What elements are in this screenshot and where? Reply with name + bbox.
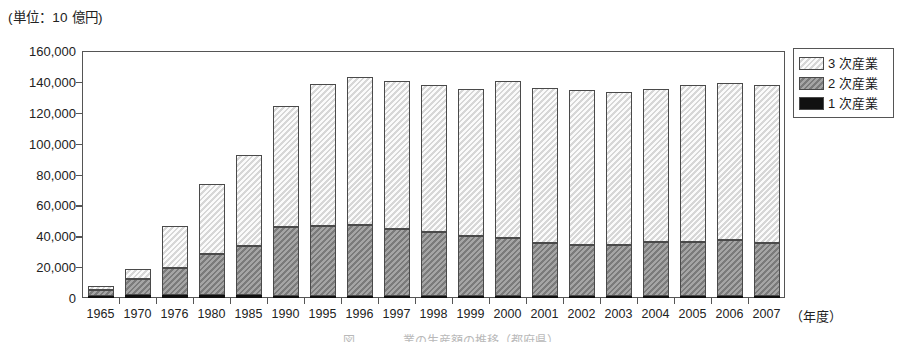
bar-stack[interactable] <box>199 184 225 298</box>
x-tick-mark <box>230 298 231 304</box>
bar-segment-secondary <box>88 290 114 296</box>
bar-segment-tertiary <box>125 269 151 279</box>
x-tick-label: 1995 <box>309 307 337 321</box>
bar-stack[interactable] <box>495 81 521 298</box>
x-tick-label: 2004 <box>642 307 670 321</box>
bar-stack[interactable] <box>569 90 595 298</box>
bar-stack[interactable] <box>754 85 780 298</box>
bar-segment-tertiary <box>421 85 447 232</box>
bar-segment-secondary <box>495 238 521 297</box>
bar-stack[interactable] <box>384 81 410 298</box>
bar-segment-tertiary <box>458 89 484 236</box>
bar-stack[interactable] <box>717 83 743 298</box>
bar-stack[interactable] <box>310 84 336 298</box>
x-tick-label: 2002 <box>568 307 596 321</box>
bars-layer <box>82 51 785 298</box>
x-tick-label: 2006 <box>716 307 744 321</box>
x-tick-mark <box>304 298 305 304</box>
x-tick-label: 1990 <box>272 307 300 321</box>
legend-label: 2 次産業 <box>828 77 878 90</box>
x-tick-mark <box>526 298 527 304</box>
bar-segment-secondary <box>569 245 595 297</box>
x-tick-mark <box>119 298 120 304</box>
x-tick-label: 2001 <box>531 307 559 321</box>
bar-segment-tertiary <box>606 92 632 245</box>
bar-segment-secondary <box>754 243 780 296</box>
x-tick-mark <box>415 298 416 304</box>
y-tick-label: 100,000 <box>29 137 76 150</box>
bar-stack[interactable] <box>273 106 299 298</box>
x-tick-mark <box>637 298 638 304</box>
bar-segment-tertiary <box>199 184 225 255</box>
figure-caption: 図 業の生産額の推移（都府県） <box>0 331 902 342</box>
bar-segment-tertiary <box>88 286 114 290</box>
bar-stack[interactable] <box>125 269 151 298</box>
legend-item-tertiary[interactable]: 3 次産業 <box>799 54 888 72</box>
legend-swatch-tertiary <box>799 57 824 70</box>
x-tick-label: 2005 <box>679 307 707 321</box>
bar-segment-secondary <box>717 240 743 296</box>
legend-item-secondary[interactable]: 2 次産業 <box>799 74 888 92</box>
y-tick-label: 140,000 <box>29 75 76 88</box>
bar-stack[interactable] <box>421 85 447 298</box>
bar-segment-tertiary <box>495 81 521 238</box>
x-tick-mark <box>378 298 379 304</box>
y-tick-label: 160,000 <box>29 45 76 58</box>
x-tick-mark <box>267 298 268 304</box>
bar-stack[interactable] <box>88 286 114 298</box>
bar-stack[interactable] <box>606 92 632 298</box>
x-tick-mark <box>674 298 675 304</box>
x-tick-label: 1999 <box>457 307 485 321</box>
y-tick-label: 80,000 <box>36 168 76 181</box>
x-tick-label: 1998 <box>420 307 448 321</box>
bar-stack[interactable] <box>236 155 262 298</box>
x-tick-label: 1965 <box>87 307 115 321</box>
bar-stack[interactable] <box>643 89 669 298</box>
y-tick-label: 60,000 <box>36 199 76 212</box>
x-tick-label: 1996 <box>346 307 374 321</box>
bar-segment-secondary <box>273 227 299 296</box>
legend-item-primary[interactable]: 1 次産業 <box>799 94 888 112</box>
legend-label: 1 次産業 <box>828 97 878 110</box>
y-tick-label: 40,000 <box>36 230 76 243</box>
bar-segment-secondary <box>680 242 706 296</box>
bar-segment-secondary <box>347 225 373 296</box>
x-tick-mark <box>563 298 564 304</box>
bar-segment-secondary <box>643 242 669 296</box>
bar-segment-tertiary <box>310 84 336 225</box>
x-tick-mark <box>452 298 453 304</box>
chart-legend: 3 次産業2 次産業1 次産業 <box>793 48 894 118</box>
x-tick-mark <box>600 298 601 304</box>
bar-stack[interactable] <box>458 89 484 298</box>
bar-segment-tertiary <box>754 85 780 243</box>
x-tick-mark <box>156 298 157 304</box>
bar-stack[interactable] <box>680 85 706 298</box>
bar-stack[interactable] <box>347 77 373 298</box>
y-axis: 160,000140,000120,000100,00080,00060,000… <box>0 41 82 308</box>
x-tick-label: 2003 <box>605 307 633 321</box>
bar-segment-secondary <box>162 268 188 295</box>
x-tick-mark <box>341 298 342 304</box>
bar-segment-secondary <box>421 232 447 296</box>
x-axis: （年度） 19651970197619801985199019951996199… <box>0 298 902 328</box>
x-tick-mark <box>711 298 712 304</box>
bar-segment-tertiary <box>347 77 373 225</box>
bar-stack[interactable] <box>162 226 188 298</box>
bar-segment-tertiary <box>569 90 595 244</box>
legend-swatch-secondary <box>799 77 824 90</box>
x-tick-label: 1976 <box>161 307 189 321</box>
bar-segment-tertiary <box>532 88 558 243</box>
bar-segment-secondary <box>125 279 151 295</box>
bar-segment-tertiary <box>273 106 299 227</box>
bar-segment-secondary <box>199 254 225 295</box>
x-tick-label: 1985 <box>235 307 263 321</box>
bar-segment-secondary <box>384 229 410 296</box>
bar-segment-secondary <box>458 236 484 296</box>
legend-swatch-primary <box>799 97 824 110</box>
bar-segment-secondary <box>606 245 632 297</box>
bar-stack[interactable] <box>532 88 558 298</box>
x-tick-mark <box>489 298 490 304</box>
stacked-bar-chart: (単位：10 億円) 160,000140,000120,000100,0008… <box>0 0 902 342</box>
bar-segment-secondary <box>532 243 558 296</box>
bar-segment-tertiary <box>643 89 669 243</box>
